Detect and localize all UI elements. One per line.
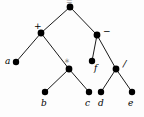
- tree-edge: [45, 69, 69, 92]
- node-label-f: f: [94, 64, 97, 73]
- tree-node-slash: [113, 66, 120, 73]
- edge-group: [16, 7, 132, 92]
- node-label-plus: +: [34, 22, 42, 31]
- tree-edge: [116, 69, 132, 92]
- tree-node-c: [86, 89, 92, 95]
- node-group: [13, 4, 135, 96]
- tree-node-a: [13, 59, 19, 65]
- expression-tree-figure: =+−a∗f/bcde: [0, 0, 144, 117]
- tree-edge: [69, 69, 89, 92]
- tree-node-b: [42, 89, 48, 95]
- node-label-a: a: [5, 57, 10, 66]
- tree-edge: [101, 69, 116, 92]
- tree-edge: [16, 33, 41, 62]
- node-label-slash: /: [123, 59, 126, 69]
- node-label-minus: −: [103, 27, 111, 36]
- tree-edge: [97, 35, 116, 69]
- tree-node-star: [66, 66, 73, 73]
- node-label-root: =: [66, 0, 73, 6]
- tree-edge: [41, 7, 70, 33]
- tree-node-e: [129, 89, 135, 95]
- tree-node-d: [98, 89, 104, 95]
- tree-node-minus: [94, 32, 101, 39]
- tree-edge: [92, 35, 97, 61]
- node-label-d: d: [98, 99, 104, 108]
- node-label-c: c: [85, 99, 90, 108]
- node-label-b: b: [41, 99, 47, 108]
- node-label-e: e: [128, 99, 133, 108]
- node-label-star: ∗: [64, 58, 70, 65]
- tree-edge: [70, 7, 97, 35]
